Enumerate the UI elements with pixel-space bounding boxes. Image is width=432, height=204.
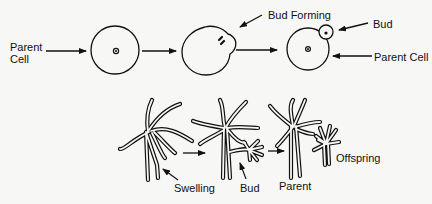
- label-parent-hydra: Parent: [279, 180, 311, 192]
- cell-with-bud: [287, 25, 333, 70]
- swelling-pointer: [163, 169, 178, 180]
- label-parent-cell-left: Parent Cell: [10, 41, 42, 65]
- hydra-swelling: [120, 100, 192, 180]
- label-cell-line2: Cell: [10, 53, 42, 65]
- hydra-with-bud: [193, 100, 262, 178]
- label-parent-cell-right: Parent Cell: [374, 51, 428, 63]
- diagram-drawing: [0, 0, 432, 204]
- bud-hydra-pointer: [240, 163, 246, 179]
- label-bud-forming: Bud Forming: [268, 9, 331, 21]
- label-parent-line1: Parent: [10, 41, 42, 53]
- bud-forming-cell: [182, 26, 236, 75]
- label-bud-hydra: Bud: [240, 182, 260, 194]
- label-bud-top: Bud: [373, 18, 393, 30]
- bud-forming-pointer: [240, 15, 262, 27]
- budding-diagram: Parent Cell Bud Forming Bud Parent Cell …: [0, 0, 432, 204]
- label-offspring: Offspring: [336, 152, 380, 164]
- label-swelling: Swelling: [174, 182, 215, 194]
- parent-cell-stage1: [91, 26, 139, 74]
- bud-pointer: [339, 23, 368, 30]
- hydra-parent: [270, 100, 320, 178]
